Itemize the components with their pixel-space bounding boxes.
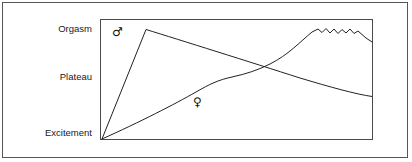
venus-symbol: ♀ xyxy=(193,96,202,108)
mars-symbol: ♂ xyxy=(112,26,123,38)
plot-frame xyxy=(101,20,373,140)
plot-area xyxy=(0,0,412,162)
sexual-response-cycle-figure: Orgasm Plateau Excitement ♂ ♀ xyxy=(0,0,412,162)
